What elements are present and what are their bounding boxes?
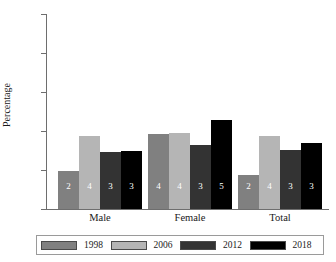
bar-value-label: 3 xyxy=(280,182,301,191)
bar-value-label: 4 xyxy=(259,182,280,191)
bar[interactable]: 2 xyxy=(238,175,259,209)
legend-swatch xyxy=(111,241,147,250)
legend-item[interactable]: 2006 xyxy=(111,240,181,250)
bar[interactable]: 2 xyxy=(58,171,79,209)
bar[interactable]: 4 xyxy=(79,136,100,209)
bar[interactable]: 3 xyxy=(190,145,211,209)
bar[interactable]: 3 xyxy=(301,143,322,209)
legend-label: 2012 xyxy=(223,240,242,250)
plot-area: 243344352433 xyxy=(46,14,328,209)
y-axis-label-wrap: Percentage xyxy=(0,0,18,220)
bar[interactable]: 4 xyxy=(169,133,190,209)
bar[interactable]: 3 xyxy=(100,152,121,209)
bar[interactable]: 4 xyxy=(148,134,169,209)
bar-value-label: 3 xyxy=(190,182,211,191)
bar-value-label: 5 xyxy=(211,182,232,191)
legend-label: 2006 xyxy=(154,240,173,250)
bar-value-label: 2 xyxy=(238,182,259,191)
bar-value-label: 4 xyxy=(148,182,169,191)
legend-item[interactable]: 2018 xyxy=(250,240,320,250)
bar-value-label: 3 xyxy=(121,182,142,191)
x-axis-category-label: Male xyxy=(58,212,142,223)
y-axis-tick xyxy=(41,209,46,210)
legend-swatch xyxy=(180,241,216,250)
legend-swatch xyxy=(41,241,77,250)
bar-value-label: 3 xyxy=(100,182,121,191)
legend-item[interactable]: 2012 xyxy=(180,240,250,250)
legend-swatch xyxy=(250,241,286,250)
bar-group: 2433 xyxy=(58,14,142,209)
bar-chart: Percentage 0246810 243344352433 MaleFema… xyxy=(0,0,336,262)
legend-item[interactable]: 1998 xyxy=(41,240,111,250)
y-axis-label: Percentage xyxy=(2,65,12,145)
legend: 1998200620122018 xyxy=(36,235,324,255)
bar-value-label: 4 xyxy=(79,182,100,191)
legend-label: 1998 xyxy=(84,240,103,250)
bar[interactable]: 3 xyxy=(121,151,142,209)
bar[interactable]: 4 xyxy=(259,136,280,209)
bar-value-label: 4 xyxy=(169,182,190,191)
x-axis-category-label: Female xyxy=(148,212,232,223)
bar[interactable]: 5 xyxy=(211,120,232,209)
x-axis-category-label: Total xyxy=(238,212,322,223)
bar-value-label: 2 xyxy=(58,182,79,191)
legend-label: 2018 xyxy=(293,240,312,250)
bar-group: 4435 xyxy=(148,14,232,209)
bar-value-label: 3 xyxy=(301,182,322,191)
x-axis-line xyxy=(46,209,329,210)
bar-group: 2433 xyxy=(238,14,322,209)
bar[interactable]: 3 xyxy=(280,150,301,209)
